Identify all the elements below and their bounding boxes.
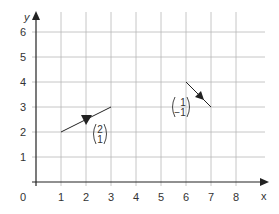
grid [32, 12, 265, 186]
y-tick-labels: 1 2 3 4 5 6 [20, 26, 26, 163]
vector-b: 1 −1 [173, 82, 212, 118]
x-tick: 4 [133, 191, 139, 203]
x-tick: 2 [83, 191, 89, 203]
x-tick: 1 [58, 191, 64, 203]
y-axis-arrow-icon [32, 11, 40, 20]
x-axis-label: x [261, 190, 267, 202]
x-tick: 5 [158, 191, 164, 203]
y-tick: 6 [20, 26, 26, 38]
x-tick: 3 [108, 191, 114, 203]
vector-a-bottom: 1 [97, 134, 103, 145]
x-tick: 6 [183, 191, 189, 203]
vector-b-bottom: −1 [174, 107, 186, 118]
axes [32, 18, 262, 186]
coordinate-grid-diagram: y x 0 1 2 3 4 5 6 7 8 1 2 3 4 5 6 2 1 1 [0, 0, 279, 214]
x-axis-arrow-icon [260, 178, 269, 186]
origin-label: 0 [20, 191, 26, 203]
right-paren-icon [104, 124, 107, 144]
left-paren-icon [94, 124, 97, 144]
y-tick: 3 [20, 101, 26, 113]
y-tick: 4 [20, 76, 26, 88]
vector-a-arrow-icon [81, 115, 92, 125]
y-tick: 1 [20, 151, 26, 163]
x-tick: 7 [208, 191, 214, 203]
x-tick: 8 [233, 191, 239, 203]
y-tick: 5 [20, 51, 26, 63]
y-tick: 2 [20, 126, 26, 138]
x-tick-labels: 1 2 3 4 5 6 7 8 [58, 191, 239, 203]
y-axis-label: y [23, 11, 31, 23]
